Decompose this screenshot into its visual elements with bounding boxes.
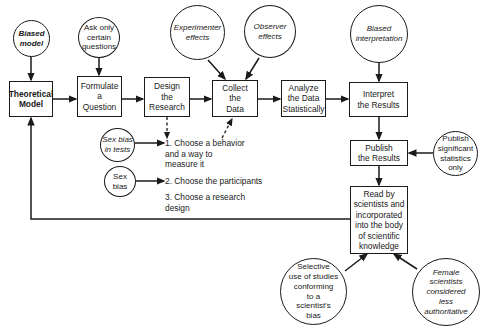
circle-ask-only-certain-questions: Ask only certain questions <box>78 17 120 58</box>
circle-selective-use-of-studies: Selective use of studies conforming to a… <box>280 258 347 325</box>
design-step-2: 2. Choose the participants <box>165 176 262 187</box>
box-formulate-question: Formulate a Question <box>77 76 122 117</box>
design-step-3: 3. Choose a research design <box>165 192 245 213</box>
design-step-1: 1. Choose a behavior and a way to measur… <box>165 138 245 170</box>
box-design-research: Design the Research <box>144 77 190 117</box>
circle-biased-model: Biased model <box>13 20 50 57</box>
box-interpret-results: Interpret the Results <box>349 82 408 117</box>
circle-sex-bias-in-tests: Sex bias in tests <box>100 128 135 162</box>
circle-female-scientists-less-authoritative: Female scientists considered less author… <box>412 258 480 326</box>
box-collect-data: Collect the Data <box>212 80 258 117</box>
box-publish-results: Publish the Results <box>350 140 408 166</box>
circle-publish-significant-statistics-only: Publish significant statistics only <box>433 131 478 176</box>
circle-biased-interpretation: Biased interpretation <box>350 5 408 63</box>
circle-observer-effects: Observer effects <box>244 5 296 58</box>
box-analyze-data: Analyze the Data Statistically <box>281 80 326 117</box>
box-read-by-scientists: Read by scientists and incorporated into… <box>350 186 408 254</box>
circle-experimenter-effects: Experimenter effects <box>170 5 225 60</box>
circle-sex-bias: Sex bias <box>104 166 136 197</box>
box-theoretical-model: Theoretical Model <box>9 81 53 117</box>
